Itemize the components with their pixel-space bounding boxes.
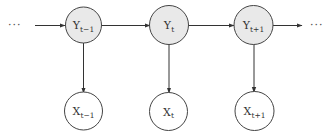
node-label-subscript: t bbox=[171, 111, 174, 120]
ellipsis-right: ··· bbox=[310, 19, 324, 32]
hmm-diagram: ··· ··· Yt−1 Yt Yt+1 Xt−1 X bbox=[0, 0, 336, 137]
node-label-subscript: t−1 bbox=[80, 25, 94, 34]
observed-node-x-t-minus-1: Xt−1 bbox=[65, 92, 103, 130]
node-label-subscript: t−1 bbox=[80, 111, 94, 120]
hidden-node-y-t: Yt bbox=[150, 6, 189, 45]
node-label-base: X bbox=[163, 106, 171, 119]
node-label-base: X bbox=[73, 105, 81, 118]
hidden-node-y-t-plus-1: Yt+1 bbox=[234, 6, 273, 45]
node-label-subscript: t+1 bbox=[250, 25, 264, 34]
observed-node-x-t-plus-1: Xt+1 bbox=[235, 92, 274, 131]
ellipsis-left: ··· bbox=[8, 19, 22, 32]
node-label-subscript: t+1 bbox=[251, 111, 265, 120]
node-label-subscript: t bbox=[171, 25, 174, 34]
node-label-base: X bbox=[244, 105, 252, 118]
observed-node-x-t: Xt bbox=[150, 93, 188, 131]
hidden-node-y-t-minus-1: Yt−1 bbox=[66, 7, 102, 43]
